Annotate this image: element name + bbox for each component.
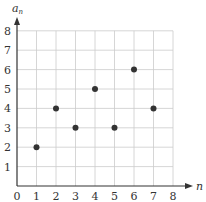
y-tick-label: 5 [4,83,11,96]
y-tick-label: 1 [4,161,11,174]
y-axis-label: an [12,2,24,16]
x-tick-label: 5 [111,190,118,202]
y-tick-label: 6 [4,64,11,77]
y-tick-label: 8 [4,25,11,38]
x-tick-label: 8 [170,190,177,202]
x-tick-label: 1 [33,190,40,202]
x-tick-label: 2 [53,190,60,202]
y-axis-arrow-icon [14,17,20,25]
x-tick-label: 0 [14,190,21,202]
x-tick-label: 6 [131,190,138,202]
x-tick-label: 3 [72,190,79,202]
data-point [112,125,118,131]
x-tick-label: 7 [150,190,157,202]
y-tick-label: 3 [4,122,11,135]
y-tick-labels: 12345678 [4,25,11,174]
scatter-chart: 012345678 12345678 n an [0,0,206,202]
y-tick-label: 7 [4,44,11,57]
x-tick-label: 4 [92,190,99,202]
y-tick-label: 4 [4,102,11,115]
data-point [131,67,137,73]
data-point [73,125,79,131]
x-axis-label: n [196,180,203,193]
data-point [92,86,98,92]
x-tick-labels: 012345678 [14,190,177,202]
x-axis-arrow-icon [185,183,193,189]
axes [14,17,193,189]
data-point [151,105,157,111]
y-tick-label: 2 [4,141,11,154]
data-point [53,105,59,111]
data-point [34,144,40,150]
grid-lines [17,31,173,186]
